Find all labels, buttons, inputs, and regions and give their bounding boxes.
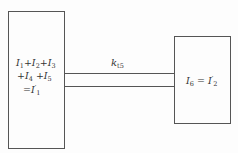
shaft-line-top <box>64 73 175 74</box>
shaft-line-bottom <box>64 86 175 87</box>
left-block-line-2: +I4 +I5 <box>17 71 52 83</box>
left-block-line-3: =I′1 <box>23 85 40 97</box>
right-block-label: I6 = I′2 <box>186 76 217 88</box>
left-block-line-1: I1+I2+I3 <box>16 58 56 70</box>
stiffness-label: kt5 <box>111 58 124 70</box>
